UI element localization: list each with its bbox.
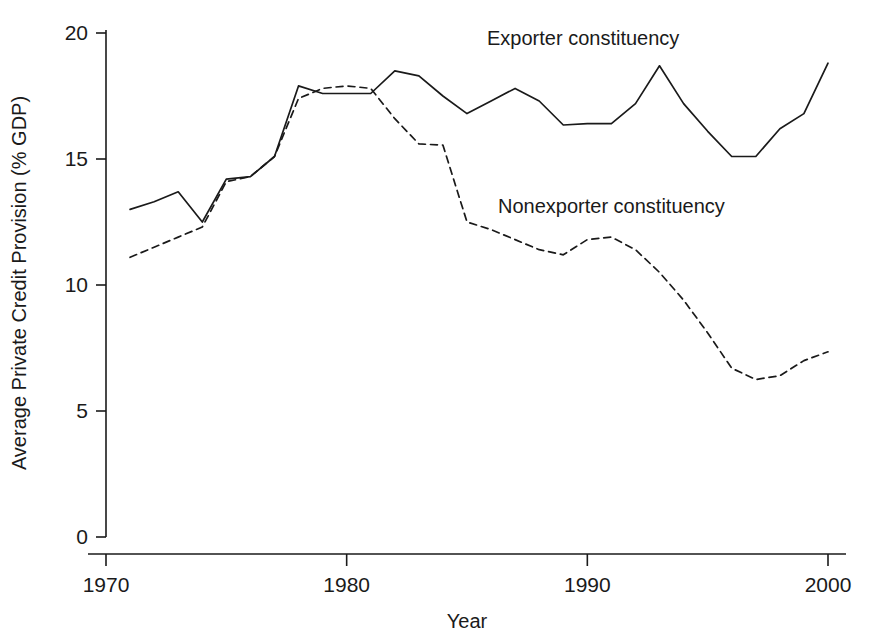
x-tick-label: 2000 bbox=[805, 573, 852, 596]
line-chart: 05101520 1970198019902000 Average Privat… bbox=[0, 0, 871, 640]
series-label-exporter: Exporter constituency bbox=[487, 27, 679, 49]
y-axis-ticks: 05101520 bbox=[65, 21, 106, 548]
y-tick-label: 5 bbox=[76, 399, 88, 422]
y-axis-title: Average Private Credit Provision (% GDP) bbox=[8, 96, 30, 470]
y-tick-label: 15 bbox=[65, 147, 88, 170]
series-label-nonexporter: Nonexporter constituency bbox=[498, 195, 725, 217]
x-axis-title: Year bbox=[447, 610, 488, 632]
x-tick-label: 1990 bbox=[564, 573, 611, 596]
y-tick-label: 0 bbox=[76, 525, 88, 548]
x-tick-label: 1980 bbox=[323, 573, 370, 596]
y-tick-label: 20 bbox=[65, 21, 88, 44]
x-axis-ticks: 1970198019902000 bbox=[83, 554, 852, 596]
series-layer bbox=[130, 63, 828, 379]
y-tick-label: 10 bbox=[65, 273, 88, 296]
x-tick-label: 1970 bbox=[83, 573, 130, 596]
series-line-nonexporter bbox=[130, 86, 828, 380]
chart-figure: 05101520 1970198019902000 Average Privat… bbox=[0, 0, 871, 640]
